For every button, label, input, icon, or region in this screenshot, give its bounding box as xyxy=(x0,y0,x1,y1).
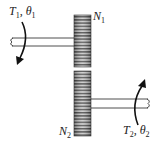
input-rotation-arrow-icon xyxy=(16,22,26,65)
input-shaft xyxy=(11,38,74,46)
output-shaft xyxy=(91,99,149,108)
output-torque-angle-label: T2, θ2 xyxy=(123,123,150,139)
output-rotation-arrow-icon xyxy=(135,79,146,125)
gear-1 xyxy=(74,15,91,67)
gear-2 xyxy=(74,71,91,136)
gear-2-teeth-label: N2 xyxy=(59,124,71,140)
input-torque-angle-label: T1, θ1 xyxy=(9,4,36,20)
gear-1-teeth-label: N1 xyxy=(93,9,105,25)
